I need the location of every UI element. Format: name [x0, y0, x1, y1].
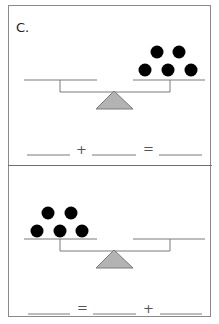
dot-icon — [185, 64, 198, 77]
top-operator-plus: + — [76, 143, 87, 156]
dot-icon — [173, 46, 186, 59]
bottom-fulcrum-triangle-icon — [96, 250, 133, 268]
top-beam — [60, 80, 170, 92]
bottom-balance-scale — [24, 207, 205, 269]
top-right-dots — [139, 46, 198, 77]
dot-icon — [76, 225, 89, 238]
bottom-operator-plus: + — [143, 302, 154, 315]
dot-icon — [162, 64, 175, 77]
top-operator-equals: = — [143, 142, 154, 155]
balance-scales-drawing — [0, 0, 219, 324]
top-fulcrum-triangle-icon — [96, 91, 133, 109]
dot-icon — [42, 207, 55, 220]
bottom-left-dots — [31, 207, 89, 238]
top-balance-scale — [24, 46, 205, 110]
dot-icon — [65, 207, 78, 220]
dot-icon — [151, 46, 164, 59]
dot-icon — [54, 225, 67, 238]
bottom-operator-equals: = — [77, 301, 88, 314]
dot-icon — [31, 225, 44, 238]
dot-icon — [139, 64, 152, 77]
bottom-beam — [60, 239, 170, 251]
